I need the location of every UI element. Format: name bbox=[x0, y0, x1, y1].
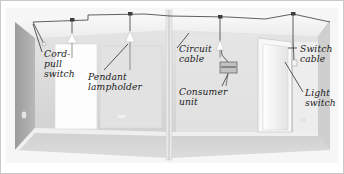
figure-border bbox=[0, 0, 344, 174]
figure-lighting-circuit: Cord- pull switch Pendant lampholder Cir… bbox=[0, 0, 344, 174]
